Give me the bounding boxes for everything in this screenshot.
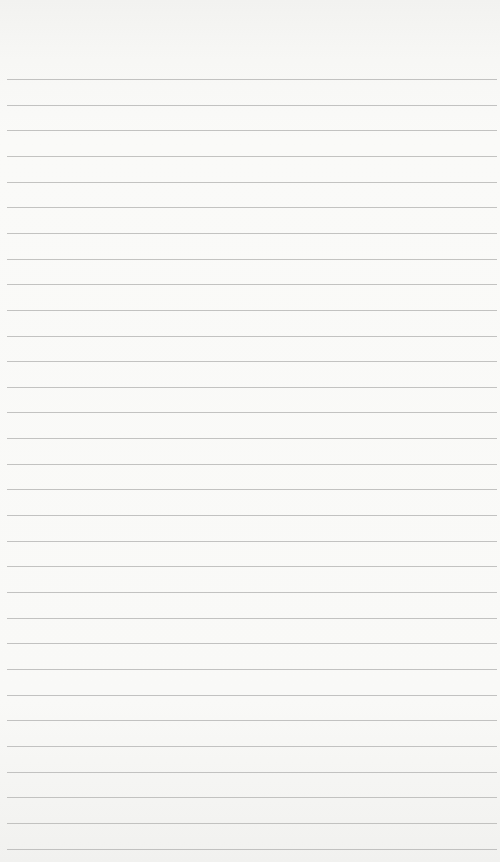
ruled-line — [7, 464, 497, 465]
ruled-line — [7, 284, 497, 285]
ruled-line — [7, 79, 497, 80]
ruled-line — [7, 720, 497, 721]
ruled-line — [7, 412, 497, 413]
ruled-line — [7, 541, 497, 542]
ruled-line — [7, 182, 497, 183]
ruled-line — [7, 592, 497, 593]
lined-paper-sheet — [0, 0, 500, 862]
ruled-line — [7, 105, 497, 106]
ruled-line — [7, 772, 497, 773]
ruled-line — [7, 695, 497, 696]
ruled-line — [7, 310, 497, 311]
ruled-line — [7, 438, 497, 439]
ruled-line — [7, 643, 497, 644]
ruled-line — [7, 387, 497, 388]
ruled-line — [7, 130, 497, 131]
ruled-line — [7, 207, 497, 208]
ruled-line — [7, 489, 497, 490]
ruled-line — [7, 259, 497, 260]
ruled-line — [7, 618, 497, 619]
ruled-line — [7, 156, 497, 157]
ruled-line — [7, 515, 497, 516]
ruled-line — [7, 797, 497, 798]
ruled-line — [7, 233, 497, 234]
ruled-line — [7, 746, 497, 747]
ruled-line — [7, 669, 497, 670]
ruled-line — [7, 566, 497, 567]
ruled-line — [7, 823, 497, 824]
ruled-line — [7, 336, 497, 337]
ruled-line — [7, 361, 497, 362]
ruled-line — [7, 849, 497, 850]
